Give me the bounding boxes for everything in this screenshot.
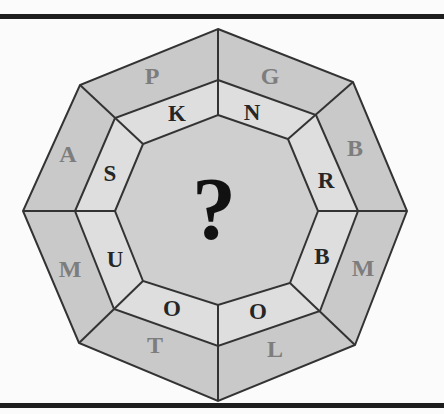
- inner-letter-1: N: [244, 100, 261, 125]
- inner-letter-4: O: [249, 299, 267, 324]
- octagon-puzzle: G B M L T M A P N R B O O U S K ?: [0, 0, 444, 414]
- outer-letter-5: T: [147, 332, 163, 358]
- inner-letter-5: O: [163, 296, 181, 321]
- outer-letter-2: B: [347, 135, 363, 161]
- outer-letter-1: G: [261, 63, 280, 89]
- inner-letter-8: K: [168, 101, 186, 126]
- outer-letter-4: L: [267, 336, 283, 362]
- question-mark: ?: [192, 160, 236, 257]
- outer-letter-8: P: [145, 63, 160, 89]
- inner-letter-3: B: [314, 244, 329, 269]
- outer-letter-7: A: [59, 141, 77, 167]
- outer-letter-3: M: [352, 255, 375, 281]
- inner-letter-7: S: [104, 161, 117, 186]
- inner-letter-6: U: [107, 247, 124, 272]
- inner-letter-2: R: [318, 168, 335, 193]
- outer-letter-6: M: [59, 256, 82, 282]
